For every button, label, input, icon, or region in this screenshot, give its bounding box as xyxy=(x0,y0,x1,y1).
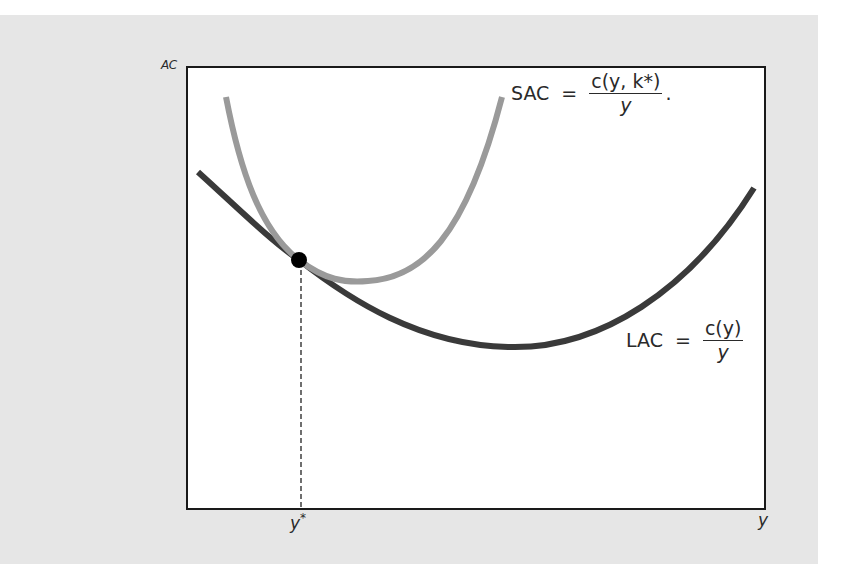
x-axis-label: y xyxy=(758,510,768,530)
lac-formula: LAC = c(y) y xyxy=(626,317,743,363)
ystar-label: y* xyxy=(290,511,306,533)
lac-fraction: c(y) y xyxy=(703,317,744,363)
sac-formula: SAC = c(y, k*) y . xyxy=(511,70,671,116)
sac-formula-period: . xyxy=(665,82,671,104)
sac-numerator: c(y, k*) xyxy=(589,70,662,94)
tangency-point xyxy=(291,252,307,268)
y-axis-label: AC xyxy=(161,58,177,72)
ystar-label-star: * xyxy=(300,511,306,525)
lac-numerator: c(y) xyxy=(703,317,744,341)
lac-denominator: y xyxy=(718,341,729,363)
sac-curve xyxy=(226,97,502,282)
lac-formula-equals: = xyxy=(675,329,691,351)
sac-fraction: c(y, k*) y xyxy=(589,70,662,116)
lac-formula-lhs: LAC xyxy=(626,329,663,351)
sac-formula-equals: = xyxy=(561,82,577,104)
cost-curves-plot xyxy=(0,0,841,564)
ystar-label-base: y xyxy=(290,513,300,533)
sac-denominator: y xyxy=(620,94,631,116)
sac-formula-lhs: SAC xyxy=(511,82,549,104)
